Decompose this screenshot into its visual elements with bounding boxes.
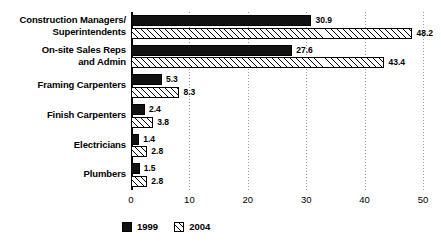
bar-2004-2 bbox=[131, 57, 384, 68]
bar-2004-5 bbox=[131, 146, 147, 157]
bar-value-label-2004-3: 8.3 bbox=[183, 88, 195, 97]
x-tick-label-20: 20 bbox=[233, 194, 263, 205]
bar-value-label-1999-4: 2.4 bbox=[149, 105, 161, 114]
category-label-4: Finish Carpenters bbox=[0, 109, 126, 121]
plot-area: 30.948.227.643.45.38.32.43.81.42.81.52.8 bbox=[131, 12, 423, 190]
x-tick-label-30: 30 bbox=[291, 194, 321, 205]
category-label-6: Plumbers bbox=[0, 168, 126, 180]
bar-2004-4 bbox=[131, 117, 153, 128]
bar-2004-3 bbox=[131, 87, 179, 98]
chart-legend: 1999 2004 bbox=[122, 222, 210, 232]
bar-value-label-1999-2: 27.6 bbox=[296, 46, 313, 55]
solid-black-swatch-icon bbox=[122, 222, 132, 232]
legend-item-2004: 2004 bbox=[174, 222, 210, 232]
gridline-30 bbox=[306, 12, 307, 190]
x-tick-label-10: 10 bbox=[174, 194, 204, 205]
x-tick-label-0: 0 bbox=[116, 194, 146, 205]
bar-2004-1 bbox=[131, 28, 412, 39]
bar-chart: 30.948.227.643.45.38.32.43.81.42.81.52.8… bbox=[0, 0, 441, 247]
category-label-5: Electricians bbox=[0, 139, 126, 151]
bar-1999-1 bbox=[131, 15, 311, 26]
gridline-40 bbox=[365, 12, 366, 190]
bar-value-label-1999-3: 5.3 bbox=[166, 75, 178, 84]
category-label-1: Construction Managers/ Superintendents bbox=[0, 14, 126, 37]
bar-value-label-2004-4: 3.8 bbox=[157, 118, 169, 127]
bar-value-label-1999-6: 1.5 bbox=[144, 164, 156, 173]
hatched-white-swatch-icon bbox=[174, 222, 184, 232]
category-label-2: On-site Sales Reps and Admin bbox=[0, 44, 126, 67]
x-tick-label-50: 50 bbox=[408, 194, 438, 205]
legend-label-1999: 1999 bbox=[137, 222, 158, 232]
bar-value-label-1999-5: 1.4 bbox=[143, 135, 155, 144]
legend-item-1999: 1999 bbox=[122, 222, 158, 232]
bar-value-label-2004-1: 48.2 bbox=[416, 29, 433, 38]
bar-1999-3 bbox=[131, 74, 162, 85]
bar-1999-5 bbox=[131, 134, 139, 145]
bar-2004-6 bbox=[131, 176, 147, 187]
category-label-3: Framing Carpenters bbox=[0, 79, 126, 91]
bar-value-label-2004-6: 2.8 bbox=[151, 177, 163, 186]
gridline-50 bbox=[423, 12, 424, 190]
bar-value-label-2004-2: 43.4 bbox=[388, 58, 405, 67]
bar-value-label-1999-1: 30.9 bbox=[315, 16, 332, 25]
bar-value-label-2004-5: 2.8 bbox=[151, 147, 163, 156]
bar-1999-2 bbox=[131, 45, 292, 56]
gridline-10 bbox=[189, 12, 190, 190]
bar-1999-4 bbox=[131, 104, 145, 115]
category-axis-labels: Construction Managers/ SuperintendentsOn… bbox=[0, 12, 126, 190]
gridline-20 bbox=[248, 12, 249, 190]
legend-label-2004: 2004 bbox=[189, 222, 210, 232]
bar-1999-6 bbox=[131, 163, 140, 174]
x-tick-label-40: 40 bbox=[350, 194, 380, 205]
